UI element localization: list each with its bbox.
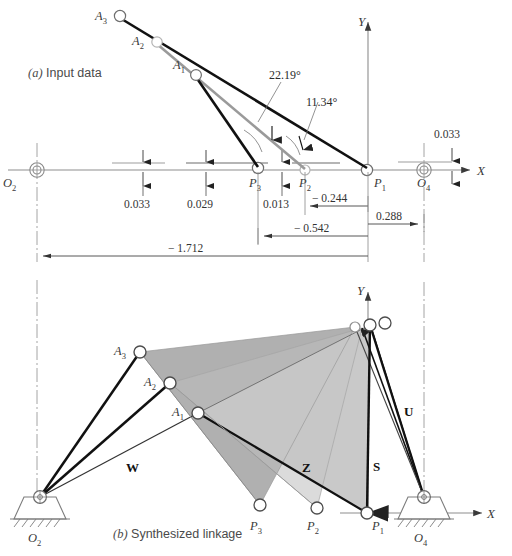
- ground-support-o2: [10, 490, 70, 527]
- joint-a1-a: [191, 70, 202, 81]
- label-a1-a: A1: [173, 58, 185, 75]
- y-axis-label-b: Y: [357, 283, 364, 299]
- link-w1: [40, 413, 198, 497]
- label-a2-a: A2: [132, 34, 144, 51]
- caption-panel-b: (b) Synthesized linkage: [113, 527, 242, 542]
- caption-a-text: Input data: [46, 66, 102, 80]
- link-w3: [40, 352, 140, 497]
- y-axis-label-a: Y: [358, 14, 365, 30]
- angle-label-2219: 22.19°: [269, 68, 301, 83]
- linkage-diagram-svg: [0, 0, 512, 556]
- joint-b1-b: [364, 319, 376, 331]
- joint-a2-b: [164, 377, 176, 389]
- label-a3-a: A3: [95, 9, 107, 26]
- offset-label-0029: 0.029: [187, 198, 213, 210]
- offset-label-0033-right: 0.033: [434, 128, 460, 140]
- vector-label-z: Z: [302, 460, 311, 476]
- vector-label-s: S: [373, 459, 380, 475]
- joint-p2-b: [311, 502, 323, 514]
- joint-b3-b: [350, 322, 360, 332]
- label-p1-b: P1: [372, 519, 384, 536]
- label-p2-b: P2: [307, 519, 319, 536]
- angle-arc-1134: [286, 136, 300, 155]
- x-axis-label-a: X: [477, 163, 485, 179]
- caption-panel-a: (a) Input data: [28, 66, 102, 81]
- joint-a3-a: [114, 10, 125, 21]
- label-p3-b: P3: [250, 519, 262, 536]
- caption-b-text: Synthesized linkage: [131, 527, 242, 541]
- label-a1-b: A1: [172, 405, 184, 422]
- angle-label-1134: 11.34°: [306, 95, 337, 110]
- joint-p1-b: [361, 507, 373, 519]
- label-p3-a: P3: [249, 176, 261, 193]
- ground-support-o4: [394, 490, 454, 527]
- pivot-o2-a: [30, 163, 44, 177]
- dim-label-0244: − 0.244: [312, 192, 347, 204]
- offset-label-0033-left: 0.033: [124, 198, 150, 210]
- caption-a-prefix: (a): [28, 66, 43, 80]
- angle-arrow-1134: [299, 136, 303, 150]
- figure-canvas: (a) Input data A3 A2 A1 O2 O4 P1 P2 P3 Y…: [0, 0, 512, 556]
- joint-p3-a: [252, 162, 263, 173]
- joint-a2-a: [152, 37, 162, 47]
- link-w2: [40, 383, 170, 497]
- label-o2-a: O2: [3, 176, 16, 193]
- joint-a3-b: [134, 346, 146, 358]
- label-p2-a: P2: [299, 176, 311, 193]
- link-u2: [362, 328, 424, 497]
- dim-label-0542: − 0.542: [294, 222, 329, 234]
- dim-label-0288: 0.288: [376, 210, 402, 222]
- dim-label-1712: − 1.712: [168, 242, 203, 254]
- joint-a1-b: [192, 407, 204, 419]
- label-p1-a: P1: [374, 176, 386, 193]
- vector-label-w: W: [126, 460, 139, 476]
- label-o2-b: O2: [28, 531, 41, 548]
- offset-label-0013: 0.013: [263, 198, 289, 210]
- joint-p3-b: [254, 499, 266, 511]
- x-axis-label-b: X: [487, 506, 495, 522]
- panel-a-group: [8, 10, 470, 262]
- joint-b2-b: [379, 317, 391, 329]
- label-o4-b: O4: [414, 531, 427, 548]
- label-a2-b: A2: [144, 375, 156, 392]
- label-o4-a: O4: [417, 176, 430, 193]
- angle-leader-2219: [258, 82, 281, 122]
- caption-b-prefix: (b): [113, 527, 128, 541]
- label-a3-b: A3: [114, 344, 126, 361]
- vector-label-u: U: [404, 404, 413, 420]
